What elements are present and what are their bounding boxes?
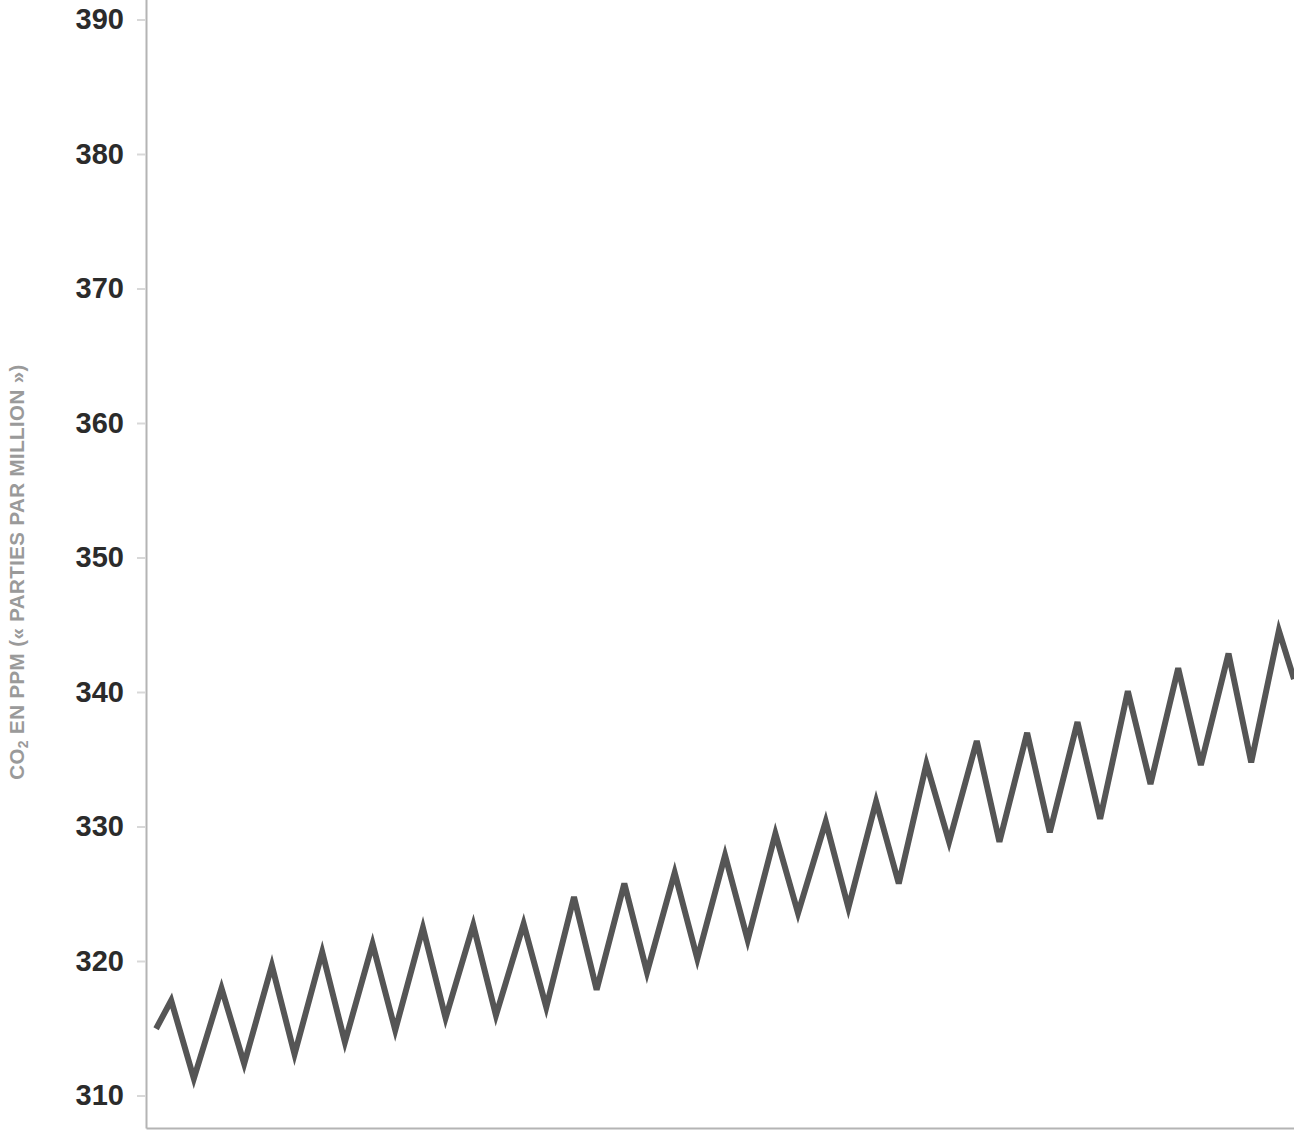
y-tick-label-340: 340: [24, 678, 124, 707]
y-tick-label-330: 330: [24, 812, 124, 841]
y-tick-label-390: 390: [24, 5, 124, 34]
plot-canvas: [146, 0, 1294, 1129]
y-tick-label-310: 310: [24, 1081, 124, 1110]
plot-area: [146, 0, 1294, 1129]
y-tick-label-group: 310320330340350360370380390: [20, 0, 124, 1144]
y-tick-label-380: 380: [24, 140, 124, 169]
y-tick-label-320: 320: [24, 947, 124, 976]
y-tick-label-350: 350: [24, 543, 124, 572]
y-tick-marks: [137, 20, 146, 1096]
co2-data-line: [156, 631, 1294, 1079]
co2-chart-figure: CO2 EN PPM (« PARTIES PAR MILLION ») 310…: [0, 0, 1294, 1144]
y-tick-label-360: 360: [24, 409, 124, 438]
y-tick-label-370: 370: [24, 274, 124, 303]
